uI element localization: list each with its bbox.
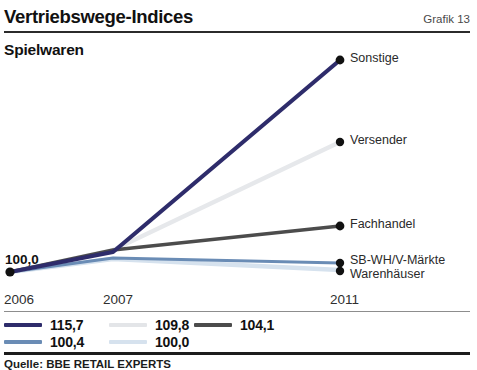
chart-header: Vertriebswege-Indices Grafik 13 (4, 6, 470, 30)
series-end-marker-sb-wh-v-maerkte (336, 259, 344, 267)
legend-swatch-fachhandel (194, 323, 232, 327)
chart-legend: 115,7 109,8 104,1 100,4 100,0 (4, 316, 470, 350)
x-tick-2007: 2007 (103, 292, 133, 307)
series-line-versender (10, 142, 340, 272)
source-text: BBE RETAIL EXPERTS (46, 358, 171, 370)
legend-value-sonstige: 115,7 (50, 317, 83, 333)
series-label-warenhaeuser: Warenhäuser (350, 268, 425, 281)
base-index-label: 100,0 (5, 252, 39, 267)
legend-swatch-sonstige (4, 323, 42, 327)
x-tick-2006: 2006 (4, 292, 34, 307)
chart-page: Vertriebswege-Indices Grafik 13 Spielwar… (0, 0, 477, 370)
series-label-fachhandel: Fachhandel (350, 218, 415, 231)
x-axis: 2006 2007 2011 (0, 292, 477, 312)
source-note: Quelle: BBE RETAIL EXPERTS (4, 358, 171, 370)
series-end-marker-sonstige (336, 56, 345, 65)
series-end-marker-fachhandel (336, 222, 345, 231)
source-label: Quelle: (4, 358, 43, 370)
legend-value-warenhaeuser: 100,0 (155, 334, 189, 350)
legend-value-sb-wh-v-maerkte: 100,4 (50, 334, 84, 350)
legend-swatch-warenhaeuser (109, 340, 147, 344)
legend-value-versender: 109,8 (155, 317, 189, 333)
x-tick-2011: 2011 (330, 292, 359, 307)
legend-value-fachhandel: 104,1 (240, 317, 274, 333)
series-start-marker (5, 267, 14, 276)
header-divider (4, 31, 470, 33)
footer-divider (4, 352, 470, 355)
series-end-marker-versender (336, 138, 344, 146)
legend-item-109-8: 109,8 (109, 317, 194, 333)
series-end-marker-warenhaeuser (336, 267, 344, 275)
legend-swatch-versender (109, 323, 147, 327)
legend-row-1: 115,7 109,8 104,1 (4, 316, 470, 333)
x-axis-rule (4, 311, 470, 312)
legend-item-100-4: 100,4 (4, 334, 109, 350)
legend-item-104-1: 104,1 (194, 317, 294, 333)
legend-item-100-0: 100,0 (109, 334, 194, 350)
series-label-versender: Versender (350, 134, 407, 147)
legend-row-2: 100,4 100,0 (4, 333, 470, 350)
legend-swatch-sb-wh-v-maerkte (4, 340, 42, 344)
page-title: Vertriebswege-Indices (4, 6, 193, 28)
figure-number: Grafik 13 (423, 13, 470, 25)
legend-item-115-7: 115,7 (4, 317, 109, 333)
series-label-sb-wh-v-maerkte: SB-WH/V-Märkte (350, 254, 445, 267)
series-label-sonstige: Sonstige (350, 52, 399, 65)
